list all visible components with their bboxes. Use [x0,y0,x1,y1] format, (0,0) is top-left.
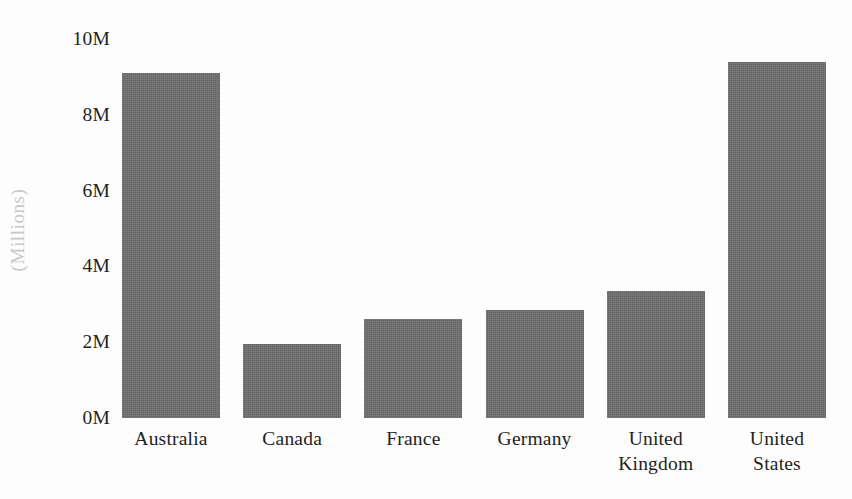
bar[interactable] [243,344,341,418]
bar-chart: (Millions) 0M2M4M6M8M10M AustraliaCanada… [0,0,852,499]
bar[interactable] [728,62,826,418]
x-axis-tick-label-line: States [697,451,852,476]
y-axis-tick-label: 2M [0,331,110,353]
plot-area: 0M2M4M6M8M10M AustraliaCanadaFranceGerma… [0,0,852,499]
y-axis-tick-label: 4M [0,255,110,277]
y-axis-tick-label: 10M [0,28,110,50]
gridline [118,115,834,116]
bar[interactable] [122,73,220,418]
gridline [118,39,834,40]
bar[interactable] [364,319,462,418]
bar[interactable] [486,310,584,418]
x-axis-tick-label: UnitedStates [697,426,852,476]
bar[interactable] [607,291,705,418]
gridline [118,191,834,192]
y-axis-tick-label: 8M [0,104,110,126]
gridline [118,266,834,267]
y-axis-tick-label: 6M [0,180,110,202]
gridline [118,342,834,343]
x-axis-tick-label-line: United [697,426,852,451]
